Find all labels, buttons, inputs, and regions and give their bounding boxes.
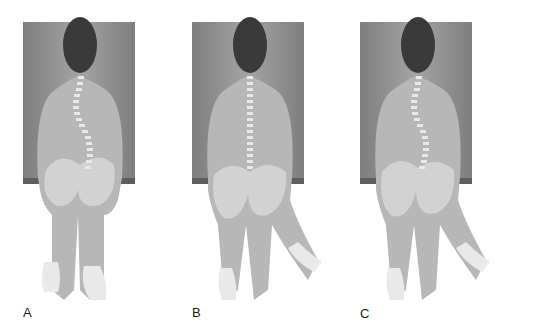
figure: A B xyxy=(0,0,536,335)
illustration-corrected-curve xyxy=(336,0,506,335)
panel-label: C xyxy=(360,306,369,321)
panel-a: A xyxy=(0,0,170,335)
illustration-straight-spine xyxy=(168,0,338,335)
panel-label: B xyxy=(192,305,201,320)
illustration-curved-spine xyxy=(0,0,170,335)
panel-b: B xyxy=(168,0,338,335)
panel-label: A xyxy=(23,305,32,320)
panel-c: C xyxy=(336,0,506,335)
